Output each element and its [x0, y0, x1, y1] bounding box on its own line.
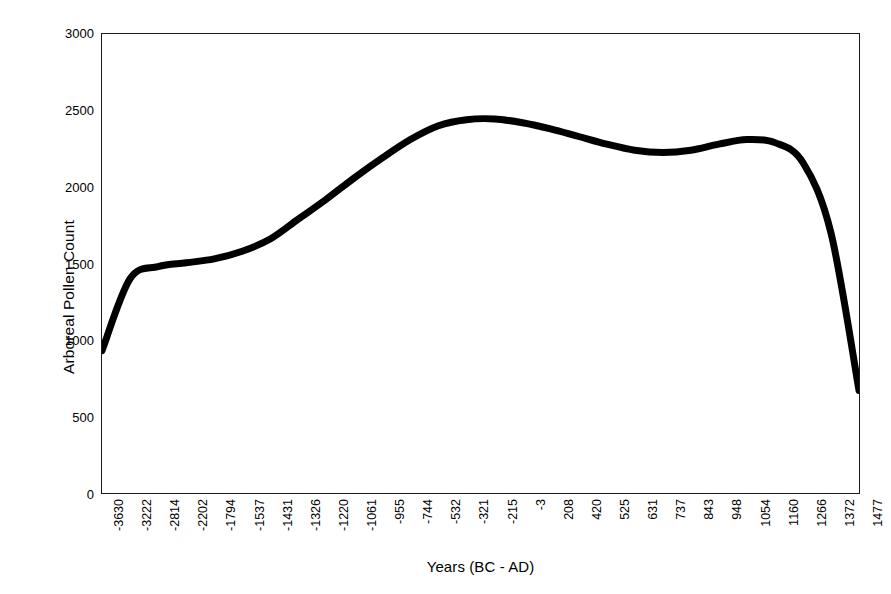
x-tick-label: -1794	[222, 497, 240, 559]
x-tick-label: 420	[588, 497, 606, 559]
x-tick-label: 843	[700, 497, 718, 559]
x-tick-label: -2202	[194, 497, 212, 559]
x-tick-label: 525	[616, 497, 634, 559]
pollen-count-line-chart: Arboreal Pollen Count 050010001500200025…	[0, 0, 891, 594]
x-tick-label: -1061	[363, 497, 381, 559]
x-tick-label: -3630	[110, 497, 128, 559]
data-series-curve	[102, 34, 859, 493]
x-axis-title: Years (BC - AD)	[101, 558, 860, 575]
y-tick-label: 1500	[48, 257, 94, 270]
y-tick-label: 1000	[48, 334, 94, 347]
x-tick-label: 1372	[841, 497, 859, 559]
y-tick-label: 0	[48, 488, 94, 501]
x-tick-label: 1054	[757, 497, 775, 559]
x-tick-label: -1537	[251, 497, 269, 559]
y-tick-label: 500	[48, 411, 94, 424]
x-tick-label: 1266	[813, 497, 831, 559]
series-line-arboreal-pollen-count	[102, 119, 859, 391]
x-tick-label: -3222	[138, 497, 156, 559]
y-tick-label: 3000	[48, 27, 94, 40]
x-tick-label: -1220	[335, 497, 353, 559]
x-tick-label: -3	[532, 497, 550, 559]
x-tick-label: 1160	[785, 497, 803, 559]
y-tick-label: 2500	[48, 103, 94, 116]
plot-area	[101, 33, 860, 494]
y-axis-tick-labels: 050010001500200025003000	[48, 0, 94, 594]
x-tick-label: -744	[419, 497, 437, 559]
x-tick-label: -1326	[307, 497, 325, 559]
x-tick-label: -955	[391, 497, 409, 559]
y-tick-label: 2000	[48, 180, 94, 193]
x-tick-label: -215	[504, 497, 522, 559]
x-tick-label: 631	[644, 497, 662, 559]
x-tick-label: 208	[560, 497, 578, 559]
x-tick-label: 948	[728, 497, 746, 559]
x-tick-label: -2814	[166, 497, 184, 559]
x-tick-label: -321	[475, 497, 493, 559]
x-tick-label: 1477	[869, 497, 887, 559]
x-tick-label: -1431	[279, 497, 297, 559]
x-tick-label: -532	[447, 497, 465, 559]
x-tick-label: 737	[672, 497, 690, 559]
x-axis-tick-labels: -3630-3222-2814-2202-1794-1537-1431-1326…	[101, 497, 860, 557]
